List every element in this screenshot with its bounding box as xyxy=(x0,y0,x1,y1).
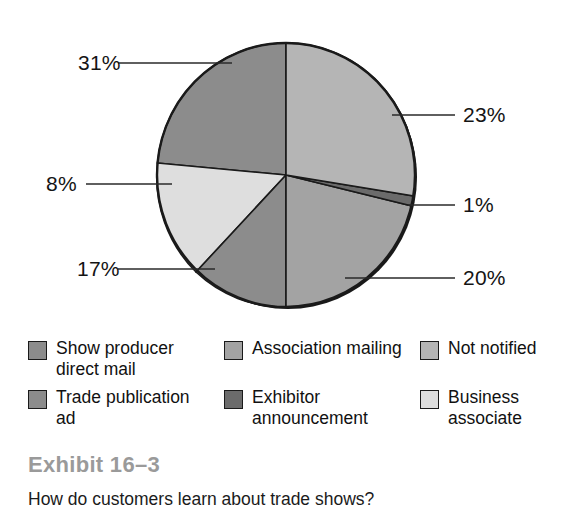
legend-label: Association mailing xyxy=(252,338,402,359)
pie-label-17: 17% xyxy=(77,257,120,281)
legend-swatch-icon xyxy=(224,390,243,409)
legend-item-exhibitor-announcement[interactable]: Exhibitor announcement xyxy=(224,387,420,428)
legend-swatch-icon xyxy=(420,341,439,360)
pie-label-20: 20% xyxy=(463,266,506,290)
legend-swatch-icon xyxy=(420,390,439,409)
legend-label: Show producer direct mail xyxy=(56,338,206,379)
legend-swatch-icon xyxy=(28,341,47,360)
legend-item-association-mailing[interactable]: Association mailing xyxy=(224,338,420,379)
legend-label: Not notified xyxy=(448,338,537,359)
legend-swatch-icon xyxy=(224,341,243,360)
legend-swatch-icon xyxy=(28,390,47,409)
pie-label-1: 1% xyxy=(463,193,494,217)
exhibit-caption: How do customers learn about trade shows… xyxy=(28,489,374,510)
legend-label: Exhibitor announcement xyxy=(252,387,402,428)
legend-label: Trade publication ad xyxy=(56,387,206,428)
pie-label-8: 8% xyxy=(46,172,77,196)
exhibit-title: Exhibit 16–3 xyxy=(28,452,160,478)
legend-item-trade-publication-ad[interactable]: Trade publication ad xyxy=(28,387,224,428)
pie-label-31: 31% xyxy=(78,51,121,75)
legend-item-business-associate[interactable]: Business associate xyxy=(420,387,566,428)
exhibit-figure: 31% 23% 8% 1% 17% 20% Show producer dire… xyxy=(0,0,566,520)
chart-legend: Show producer direct mail Association ma… xyxy=(28,338,548,429)
pie-label-23: 23% xyxy=(463,103,506,127)
pie-chart: 31% 23% 8% 1% 17% 20% xyxy=(0,0,566,325)
pie-slice-not-notified xyxy=(286,43,416,196)
legend-label: Business associate xyxy=(448,387,566,428)
legend-item-show-producer-direct-mail[interactable]: Show producer direct mail xyxy=(28,338,224,379)
legend-item-not-notified[interactable]: Not notified xyxy=(420,338,566,379)
